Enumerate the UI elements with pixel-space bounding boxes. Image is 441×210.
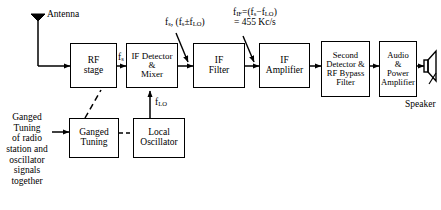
flo-sub: LO: [158, 100, 167, 107]
ganged-note-line-2: Tuning: [0, 123, 54, 134]
ganged-note-line-5: oscillator: [0, 155, 54, 166]
block-if-filter[interactable]: IF Filter: [193, 43, 245, 88]
if-f4: ): [274, 7, 277, 17]
mix-f3-sub: LO: [193, 20, 202, 27]
ganged-note-line-6: signals: [0, 165, 54, 176]
ganged-tuning-note: Ganged Tuning of radio station and oscil…: [0, 112, 54, 186]
signal-label-if-frequency: fIF=(fs−fLO) = 455 Kc/s: [233, 8, 277, 28]
local-oscillator-line-2: Oscillator: [139, 138, 178, 148]
if-freq-line-2: = 455 Kc/s: [233, 18, 277, 28]
antenna-label: Antenna: [47, 10, 79, 20]
block-if-detector-mixer[interactable]: IF Detector & Mixer: [126, 43, 178, 88]
block-rf-stage[interactable]: RF stage: [70, 43, 117, 88]
mix-f3: ±f: [184, 17, 192, 27]
second-detector-line-4: Filter: [325, 78, 365, 87]
speaker-icon: [424, 51, 436, 84]
mix-f2: , (f: [171, 17, 182, 27]
fs-rf-sub: s: [121, 55, 124, 62]
diagram-wires: [0, 0, 441, 210]
antenna-icon: [31, 14, 70, 66]
block-if-amplifier[interactable]: IF Amplifier: [259, 43, 310, 88]
if-filter-line-2: Filter: [208, 66, 231, 76]
if-detector-line-3: Mixer: [130, 70, 173, 79]
signal-label-mixer-output: fs, (fs±fLO): [165, 18, 205, 28]
if-f2: =(f: [242, 7, 254, 17]
signal-label-flo: fLO: [155, 98, 167, 108]
block-audio-power-amplifier[interactable]: Audio & Power Amplifier: [379, 41, 417, 97]
signal-label-fs-rf: fs: [118, 53, 124, 63]
mix-f4: ): [202, 17, 205, 27]
speaker-label: Speaker: [405, 100, 436, 110]
block-second-detector-rf-bypass-filter[interactable]: Second Detector & RF Bypass Filter: [321, 41, 370, 97]
link-ganged-to-rf: [85, 90, 101, 118]
rf-stage-line-2: stage: [83, 66, 105, 76]
if-amplifier-line-2: Amplifier: [265, 66, 304, 76]
if-f3: −f: [256, 7, 265, 17]
block-local-oscillator[interactable]: Local Oscillator: [133, 118, 185, 158]
block-ganged-tuning[interactable]: Ganged Tuning: [69, 118, 119, 158]
audio-amp-line-4: Amplifier: [380, 78, 416, 87]
ganged-note-line-3: of radio: [0, 133, 54, 144]
ganged-note-line-7: together: [0, 176, 54, 187]
block-diagram-canvas: RF stage IF Detector & Mixer IF Filter I…: [0, 0, 441, 210]
ganged-note-line-4: station and: [0, 144, 54, 155]
ganged-note-line-1: Ganged: [0, 112, 54, 123]
ganged-tuning-line-2: Tuning: [78, 138, 110, 148]
